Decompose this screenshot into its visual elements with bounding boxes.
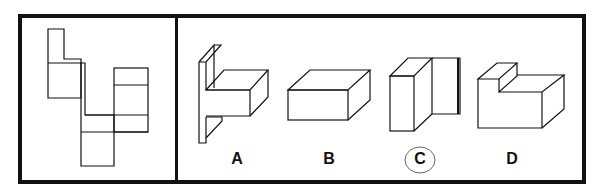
option-a-shape[interactable] [199,45,268,143]
option-d-label[interactable]: D [497,150,527,168]
option-b-label[interactable]: B [314,150,344,168]
unfolded-net [48,29,148,166]
option-c-shape[interactable] [390,58,460,131]
option-d-shape[interactable] [478,63,564,128]
option-b-shape[interactable] [288,70,370,120]
option-c-label[interactable]: C [405,150,435,168]
option-a-label[interactable]: A [222,150,252,168]
